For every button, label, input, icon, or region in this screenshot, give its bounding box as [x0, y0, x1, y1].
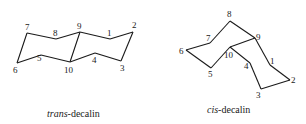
atom-label-7: 7 — [25, 22, 30, 32]
atom-label-6: 6 — [179, 46, 184, 56]
atom-label-2: 2 — [132, 20, 137, 30]
bond-6-7 — [186, 43, 210, 50]
bond-8-9 — [56, 32, 80, 39]
atom-label-1: 1 — [107, 28, 112, 38]
bond-1-2 — [110, 32, 133, 39]
atom-label-2: 2 — [291, 75, 296, 85]
atom-label-4: 4 — [92, 55, 97, 65]
bond-7-8 — [210, 21, 230, 43]
bond-10-5 — [41, 55, 70, 62]
atom-label-1: 1 — [270, 56, 275, 66]
bond-2-3 — [121, 32, 133, 61]
bond-8-9 — [230, 21, 255, 38]
atom-label-7: 7 — [206, 33, 211, 43]
atom-label-5: 5 — [208, 69, 213, 79]
trans-decalin-caption: trans-decalin — [47, 108, 100, 119]
atom-label-10: 10 — [224, 50, 234, 60]
trans-decalin-structure: 12345678910 — [13, 20, 137, 75]
bond-5-6 — [186, 50, 211, 68]
bond-7-8 — [27, 33, 56, 39]
cis-decalin-structure: 12345678910 — [179, 9, 296, 100]
bond-3-4 — [95, 53, 121, 61]
bond-6-7 — [17, 33, 27, 63]
bond-1-2 — [270, 65, 290, 80]
atom-label-6: 6 — [13, 65, 18, 75]
atom-label-10: 10 — [64, 65, 74, 75]
atom-label-3: 3 — [256, 90, 261, 100]
atom-label-8: 8 — [227, 9, 232, 19]
atom-label-5: 5 — [37, 53, 42, 63]
atom-label-4: 4 — [244, 61, 249, 71]
bond-9-1 — [255, 38, 270, 65]
bond-2-3 — [261, 80, 290, 89]
decalin-figure: 12345678910 12345678910 trans-decalin ci… — [0, 0, 306, 124]
cis-decalin-caption: cis-decalin — [207, 104, 250, 115]
bond-9-10 — [70, 32, 80, 62]
atom-label-3: 3 — [120, 63, 125, 73]
bond-9-1 — [80, 32, 110, 39]
atom-label-9: 9 — [256, 32, 261, 42]
bond-3-4 — [250, 63, 261, 89]
atom-label-9: 9 — [77, 21, 82, 31]
bond-10-9 — [230, 38, 255, 47]
atom-label-8: 8 — [53, 28, 58, 38]
